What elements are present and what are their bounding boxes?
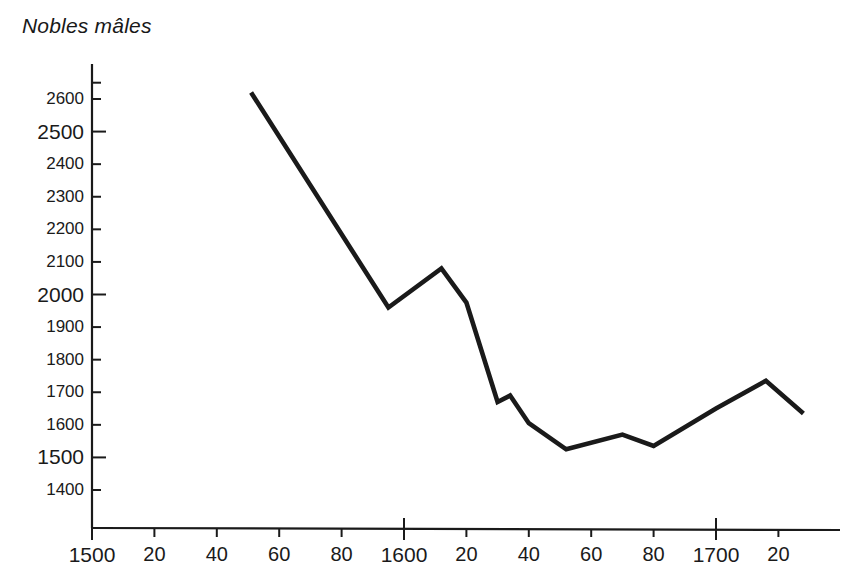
y-axis-ticks	[92, 83, 106, 490]
x-axis-tick-label: 60	[268, 543, 290, 566]
x-axis-tick-label: 20	[767, 543, 789, 566]
y-axis-tick-label: 2100	[0, 252, 84, 272]
y-axis-tick-label: 1500	[0, 445, 84, 469]
data-series-line	[251, 93, 803, 450]
y-axis-tick-label: 2300	[0, 187, 84, 207]
x-axis-tick-label: 1600	[381, 543, 428, 567]
y-axis-tick-label: 1700	[0, 382, 84, 402]
y-axis-tick-label: 2000	[0, 283, 84, 307]
x-axis-tick-label: 40	[518, 543, 540, 566]
x-axis-tick-label: 40	[206, 543, 228, 566]
x-axis-tick-label: 1500	[69, 543, 116, 567]
y-axis-tick-label: 2400	[0, 154, 84, 174]
x-axis-tick-label: 80	[330, 543, 352, 566]
y-axis-tick-label: 1600	[0, 415, 84, 435]
x-axis-tick-label: 1700	[693, 543, 740, 567]
axes-group	[92, 64, 840, 530]
chart-canvas: Nobles mâles 140015001600170018001900200…	[0, 0, 848, 577]
y-axis-tick-label: 1800	[0, 350, 84, 370]
x-axis-tick-label: 20	[455, 543, 477, 566]
y-axis-tick-label: 2200	[0, 219, 84, 239]
plot-area	[0, 0, 848, 577]
y-axis-tick-label: 2500	[0, 120, 84, 144]
y-axis-tick-label: 1900	[0, 317, 84, 337]
x-axis-tick-label: 20	[143, 543, 165, 566]
y-axis-tick-label: 2600	[0, 89, 84, 109]
x-axis-tick-label: 60	[580, 543, 602, 566]
x-axis-tick-label: 80	[642, 543, 664, 566]
y-axis-tick-label: 1400	[0, 480, 84, 500]
